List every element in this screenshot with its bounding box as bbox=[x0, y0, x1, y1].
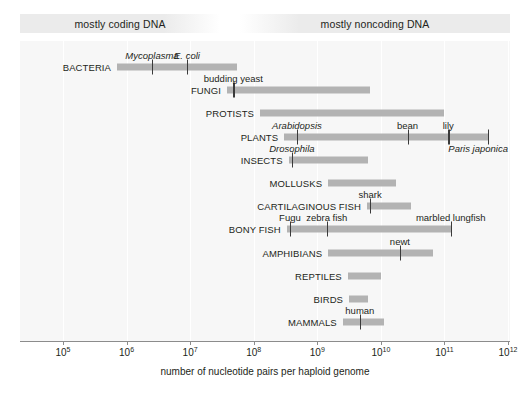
bar-cartilaginous-fish bbox=[367, 203, 412, 210]
row-bacteria: BACTERIAMycoplasmaE. coli bbox=[20, 55, 510, 81]
row-amphibians: AMPHIBIANSnewt bbox=[20, 241, 510, 267]
row-label-amphibians: AMPHIBIANS bbox=[262, 247, 322, 258]
marker-tick-marbled-lungfish bbox=[451, 222, 452, 237]
bar-birds bbox=[349, 296, 368, 303]
row-label-cartilaginous-fish: CARTILAGINOUS FISH bbox=[257, 201, 361, 212]
row-label-mammals: MAMMALS bbox=[288, 317, 337, 328]
band-mostly-coding-dna: mostly coding DNA bbox=[20, 14, 220, 33]
marker-label-e-coli: E. coli bbox=[174, 50, 200, 61]
marker-label-zebra-fish: zebra fish bbox=[306, 212, 347, 223]
axis-tick-mark-1e7 bbox=[190, 341, 191, 345]
marker-label-newt: newt bbox=[390, 236, 410, 247]
row-protists: PROTISTS bbox=[20, 101, 510, 127]
band-right-label: mostly noncoding DNA bbox=[321, 18, 430, 30]
marker-label-bean: bean bbox=[397, 120, 418, 131]
axis-label-1e12: 1012 bbox=[499, 346, 518, 358]
marker-label-mycoplasma: Mycoplasma bbox=[125, 50, 178, 61]
marker-tick-zebra-fish bbox=[327, 222, 328, 237]
marker-tick-drosophila bbox=[292, 152, 293, 167]
row-label-birds: BIRDS bbox=[314, 294, 344, 305]
marker-label-human: human bbox=[345, 305, 374, 316]
marker-tick-e-coli bbox=[187, 60, 188, 75]
bar-mollusks bbox=[328, 180, 396, 187]
band-mostly-noncoding-dna: mostly noncoding DNA bbox=[240, 14, 510, 33]
x-axis-line bbox=[20, 341, 510, 342]
bar-protists bbox=[260, 110, 444, 117]
marker-label-drosophila: Drosophila bbox=[269, 143, 314, 154]
axis-label-1e8: 108 bbox=[246, 346, 261, 358]
axis-tick-mark-1e12 bbox=[508, 341, 509, 345]
row-label-plants: PLANTS bbox=[241, 131, 279, 142]
marker-tick-newt bbox=[400, 245, 401, 260]
bar-amphibians bbox=[328, 249, 433, 256]
axis-label-1e11: 1011 bbox=[435, 346, 453, 358]
row-insects: INSECTSDrosophila bbox=[20, 148, 510, 174]
bar-mammals bbox=[343, 319, 384, 326]
row-label-bony-fish: BONY FISH bbox=[229, 224, 281, 235]
axis-tick-mark-1e9 bbox=[317, 341, 318, 345]
row-label-fungi: FUNGI bbox=[191, 85, 221, 96]
marker-label-marbled-lungfish: marbled lungfish bbox=[416, 212, 486, 223]
marker-label-arabidopsis: Arabidopsis bbox=[272, 120, 322, 131]
axis-tick-mark-1e8 bbox=[254, 341, 255, 345]
axis-label-1e5: 105 bbox=[55, 346, 70, 358]
marker-label-lily: lily bbox=[443, 120, 454, 131]
marker-tick-budding-yeast bbox=[233, 83, 234, 98]
bar-plants bbox=[284, 133, 487, 140]
band-left-label: mostly coding DNA bbox=[75, 18, 166, 30]
axis-tick-mark-1e10 bbox=[381, 341, 382, 345]
bar-fungi bbox=[227, 87, 370, 94]
marker-tick-human bbox=[360, 315, 361, 330]
marker-label-fugu: Fugu bbox=[279, 212, 301, 223]
row-label-protists: PROTISTS bbox=[206, 108, 254, 119]
marker-tick-bean bbox=[408, 129, 409, 144]
axis-tick-mark-1e5 bbox=[63, 341, 64, 345]
row-plants: PLANTSArabidopsisbeanlilyParis japonica bbox=[20, 125, 510, 151]
row-bony-fish: BONY FISHFuguzebra fishmarbled lungfish bbox=[20, 217, 510, 243]
bar-bony-fish bbox=[287, 226, 451, 233]
axis-tick-mark-1e6 bbox=[127, 341, 128, 345]
row-reptiles: REPTILES bbox=[20, 264, 510, 290]
marker-label-shark: shark bbox=[358, 189, 381, 200]
row-mollusks: MOLLUSKS bbox=[20, 171, 510, 197]
marker-label-budding-yeast: budding yeast bbox=[204, 73, 263, 84]
marker-tick-mycoplasma bbox=[152, 60, 153, 75]
row-birds: BIRDS bbox=[20, 287, 510, 313]
bar-insects bbox=[289, 156, 368, 163]
row-label-insects: INSECTS bbox=[241, 154, 283, 165]
row-mammals: MAMMALShuman bbox=[20, 310, 510, 336]
x-axis-title: number of nucleotide pairs per haploid g… bbox=[0, 366, 530, 377]
axis-label-1e6: 106 bbox=[119, 346, 134, 358]
bar-bacteria bbox=[117, 64, 237, 71]
row-label-mollusks: MOLLUSKS bbox=[270, 178, 323, 189]
plot-panel: BACTERIAMycoplasmaE. coliFUNGIbudding ye… bbox=[20, 41, 510, 341]
axis-tick-mark-1e11 bbox=[444, 341, 445, 345]
row-label-bacteria: BACTERIA bbox=[63, 62, 111, 73]
axis-label-1e10: 1010 bbox=[371, 346, 390, 358]
axis-label-1e9: 109 bbox=[310, 346, 325, 358]
marker-tick-shark bbox=[370, 199, 371, 214]
genome-size-figure: mostly coding DNA mostly noncoding DNA B… bbox=[0, 0, 530, 405]
row-fungi: FUNGIbudding yeast bbox=[20, 78, 510, 104]
bar-reptiles bbox=[348, 272, 381, 279]
marker-tick-fugu bbox=[290, 222, 291, 237]
row-label-reptiles: REPTILES bbox=[295, 270, 342, 281]
axis-label-1e7: 107 bbox=[183, 346, 198, 358]
